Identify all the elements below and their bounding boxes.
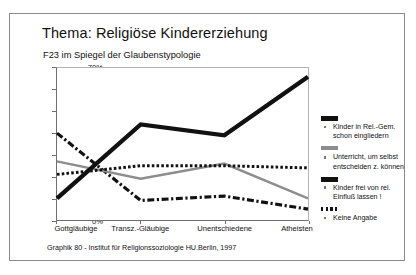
x-axis-tick — [140, 221, 141, 224]
legend-item[interactable]: Unterricht, um selbstentscheiden z. könn… — [321, 146, 416, 171]
chart-frame: Thema: Religiöse Kindererziehung F23 im … — [9, 13, 405, 261]
legend-item[interactable]: Kinder in Rel.-Gem.schon eingliedern — [321, 116, 416, 141]
plot-area — [56, 67, 309, 221]
legend-swatch-icon — [321, 116, 338, 121]
x-axis-tick — [309, 221, 310, 224]
legend-swatch-icon — [321, 146, 338, 150]
legend-label: Kinder in Rel.-Gem.schon eingliedern — [333, 116, 416, 141]
legend-label-line1: Unterricht, um selbst — [333, 153, 416, 162]
legend-label-line2: Einfluß lassen ! — [333, 193, 416, 202]
x-axis-tick — [225, 221, 226, 224]
x-axis-tick-label: Gottgläubige — [54, 224, 97, 233]
legend-swatch-icon — [321, 177, 338, 182]
legend-marker-icon — [324, 217, 327, 220]
chart-title: Thema: Religiöse Kindererziehung — [42, 25, 268, 41]
legend-label: Keine Angabe — [333, 207, 416, 223]
x-axis-tick — [56, 221, 57, 224]
series-lines — [57, 68, 308, 220]
legend: Kinder in Rel.-Gem.schon eingliedernUnte… — [321, 116, 416, 228]
legend-marker-icon — [324, 156, 327, 159]
x-axis-tick-label: Unentschiedene — [197, 224, 252, 233]
legend-item[interactable]: Keine Angabe — [321, 207, 416, 223]
legend-swatch-icon — [321, 207, 338, 211]
series-line-2 — [57, 77, 308, 199]
legend-label-line2: schon eingliedern — [333, 132, 416, 141]
x-axis-tick-label: Transz.-Gläubige — [111, 224, 169, 233]
legend-label-line1: Keine Angabe — [333, 214, 416, 223]
legend-label-line1: Kinder frei von rel. — [333, 184, 416, 193]
chart-subtitle: F23 im Spiegel der Glaubenstypologie — [43, 50, 201, 60]
legend-label: Unterricht, um selbstentscheiden z. könn… — [333, 146, 416, 171]
legend-item[interactable]: Kinder frei von rel.Einfluß lassen ! — [321, 177, 416, 202]
legend-label-line2: entscheiden z. können — [333, 163, 416, 172]
legend-marker-icon — [324, 126, 327, 129]
legend-marker-icon — [324, 186, 327, 189]
legend-label: Kinder frei von rel.Einfluß lassen ! — [333, 177, 416, 202]
chart-footer: Graphik 80 - Institut für Religionssozio… — [47, 243, 236, 252]
legend-label-line1: Kinder in Rel.-Gem. — [333, 123, 416, 132]
x-axis-tick-label: Atheisten — [281, 224, 313, 233]
